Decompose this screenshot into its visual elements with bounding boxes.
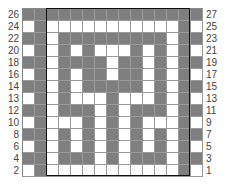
grid-cell: [179, 93, 191, 105]
grid-cell: [143, 93, 155, 105]
row-label: 20: [0, 45, 19, 57]
grid-cell: [155, 93, 167, 105]
row-label: 9: [206, 117, 226, 129]
grid-cell: [143, 69, 155, 81]
grid-cell: [59, 69, 71, 81]
grid-cell: [23, 9, 35, 21]
grid-cell: [155, 153, 167, 165]
grid-cell: [143, 165, 155, 177]
grid-cell: [47, 81, 59, 93]
grid-cell: [47, 129, 59, 141]
grid-cell: [191, 117, 203, 129]
grid-cell: [119, 33, 131, 45]
grid-cell: [95, 21, 107, 33]
grid-cell: [179, 129, 191, 141]
grid-cell: [71, 45, 83, 57]
grid-cell: [179, 153, 191, 165]
grid-cell: [59, 141, 71, 153]
grid-cell: [179, 69, 191, 81]
grid-cell: [59, 93, 71, 105]
grid-cell: [143, 105, 155, 117]
grid-cell: [191, 165, 203, 177]
grid-cell: [155, 69, 167, 81]
row-label: 27: [206, 9, 226, 21]
grid-cell: [131, 57, 143, 69]
grid-cell: [155, 129, 167, 141]
grid-cell: [95, 9, 107, 21]
grid-cell: [83, 57, 95, 69]
grid-cell: [59, 117, 71, 129]
grid-cell: [143, 45, 155, 57]
grid-cell: [155, 105, 167, 117]
grid-cell: [119, 153, 131, 165]
grid-cell: [191, 69, 203, 81]
grid-cell: [107, 93, 119, 105]
row-label: 4: [0, 153, 19, 165]
grid-cell: [35, 9, 47, 21]
grid-cell: [71, 93, 83, 105]
grid-cell: [191, 57, 203, 69]
grid-cell: [131, 9, 143, 21]
grid-cell: [167, 57, 179, 69]
grid-cell: [95, 153, 107, 165]
grid-cell: [71, 9, 83, 21]
grid-cell: [179, 117, 191, 129]
row-label: 2: [0, 165, 19, 177]
grid-cell: [143, 33, 155, 45]
grid-cell: [143, 9, 155, 21]
row-label: 15: [206, 81, 226, 93]
grid-cell: [107, 105, 119, 117]
grid-cell: [143, 141, 155, 153]
grid-cell: [191, 153, 203, 165]
grid-cell: [95, 93, 107, 105]
grid-cell: [35, 57, 47, 69]
grid-cell: [71, 33, 83, 45]
grid-cell: [59, 105, 71, 117]
grid-cell: [167, 93, 179, 105]
grid-cell: [83, 153, 95, 165]
grid-cell: [71, 165, 83, 177]
grid-cell: [143, 153, 155, 165]
grid-cell: [35, 141, 47, 153]
grid-cell: [143, 81, 155, 93]
grid-cell: [107, 45, 119, 57]
grid-cell: [131, 21, 143, 33]
knitting-chart: 262422201816141312108642 272523211917151…: [0, 0, 229, 192]
grid-cell: [179, 33, 191, 45]
grid-cell: [35, 69, 47, 81]
grid-cell: [191, 45, 203, 57]
grid-cell: [59, 9, 71, 21]
grid-cell: [191, 93, 203, 105]
grid-cell: [143, 21, 155, 33]
grid-cell: [47, 165, 59, 177]
grid-cell: [107, 165, 119, 177]
grid-cell: [35, 105, 47, 117]
grid-cell: [47, 9, 59, 21]
grid-cell: [23, 153, 35, 165]
grid-cell: [191, 141, 203, 153]
row-label: 13: [206, 93, 226, 105]
grid-cell: [47, 21, 59, 33]
grid-cell: [83, 69, 95, 81]
grid-cell: [119, 69, 131, 81]
row-label: 5: [206, 141, 226, 153]
grid-cell: [107, 141, 119, 153]
grid-cell: [155, 81, 167, 93]
grid-cell: [71, 81, 83, 93]
grid-cell: [71, 129, 83, 141]
grid-cell: [83, 33, 95, 45]
grid-cell: [23, 69, 35, 81]
grid-cell: [47, 141, 59, 153]
grid-cell: [95, 33, 107, 45]
grid-cell: [191, 9, 203, 21]
grid-cell: [47, 57, 59, 69]
grid-cell: [119, 165, 131, 177]
grid-cell: [23, 105, 35, 117]
grid-cell: [131, 33, 143, 45]
grid-cell: [23, 129, 35, 141]
grid-cell: [179, 81, 191, 93]
row-label: 19: [206, 57, 226, 69]
grid-cell: [107, 21, 119, 33]
grid-cell: [191, 21, 203, 33]
grid-cell: [35, 33, 47, 45]
